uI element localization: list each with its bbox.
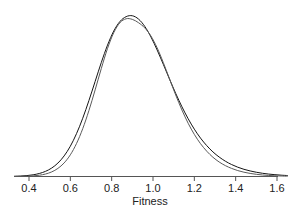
curves-group xyxy=(15,16,288,177)
x-axis-title: Fitness xyxy=(132,195,168,207)
x-axis-group: 0.40.60.81.01.21.41.6 Fitness xyxy=(14,177,285,208)
x-axis-tick-label: 1.4 xyxy=(228,182,243,194)
x-axis-tick-label: 1.2 xyxy=(187,182,202,194)
x-axis-tick-label: 0.6 xyxy=(63,182,78,194)
x-axis-tick-label: 1.6 xyxy=(269,182,284,194)
plot-canvas: 0.40.60.81.01.21.41.6 Fitness xyxy=(0,0,301,217)
density-plot-figure: 0.40.60.81.01.21.41.6 Fitness xyxy=(0,0,301,217)
x-axis-tick-label: 0.8 xyxy=(104,182,119,194)
x-axis-tick-label: 1.0 xyxy=(145,182,160,194)
x-axis-tick-label: 0.4 xyxy=(21,182,36,194)
x-axis-tick-labels: 0.40.60.81.01.21.41.6 xyxy=(21,182,284,194)
density-curve-2 xyxy=(15,19,288,177)
x-axis-tick-marks xyxy=(29,177,277,182)
density-curve-1 xyxy=(15,16,288,177)
